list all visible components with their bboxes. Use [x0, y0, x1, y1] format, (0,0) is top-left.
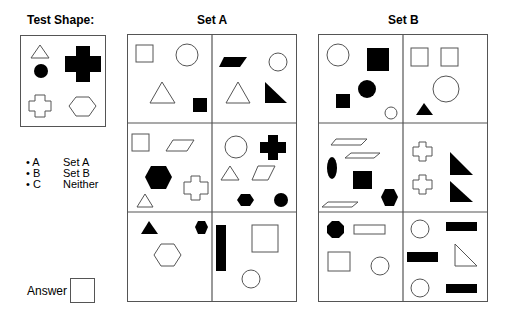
answer-label: Answer	[27, 286, 67, 297]
option-c-label: Neither	[63, 179, 98, 190]
circle-icon	[34, 64, 48, 78]
option-c-key[interactable]: • C	[26, 179, 41, 190]
hexagon-icon	[69, 97, 96, 116]
test-shapes	[29, 45, 101, 117]
triangle-icon	[31, 45, 49, 58]
answer-box[interactable]	[70, 278, 95, 303]
cross-icon	[65, 46, 101, 82]
cross-icon	[29, 95, 51, 117]
